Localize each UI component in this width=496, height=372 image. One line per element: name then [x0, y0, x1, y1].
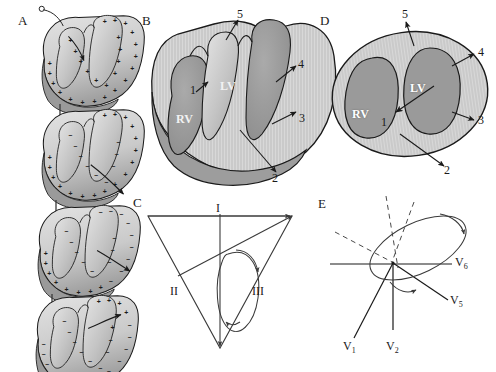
svg-text:+: +	[51, 80, 55, 87]
panel-letter-e: E	[318, 197, 326, 210]
svg-text:–: –	[119, 210, 123, 217]
panel-e-lead-v5-letter: V	[450, 293, 459, 307]
svg-text:–: –	[126, 219, 130, 226]
svg-text:–: –	[75, 248, 79, 255]
svg-text:+: +	[74, 48, 78, 55]
panel-d-callout-5: 5	[402, 8, 408, 20]
svg-text:+: +	[44, 260, 48, 267]
panel-b-callout-5: 5	[237, 8, 243, 20]
svg-text:–: –	[79, 152, 83, 159]
panel-e-lead-v6: V6	[455, 256, 468, 271]
figure-canvas: +++ +++ +++ +++ +++ +++ +++ +++ +++ +++ …	[0, 0, 496, 372]
svg-text:+: +	[103, 18, 107, 25]
panel-b-callout-2: 2	[272, 172, 278, 184]
svg-text:–: –	[115, 150, 119, 157]
svg-text:–: –	[99, 364, 103, 371]
svg-text:+: +	[94, 77, 98, 84]
panel-letter-a: A	[18, 14, 27, 27]
svg-text:+: +	[130, 123, 134, 130]
panel-c-lead-ii: II	[170, 285, 178, 297]
panel-d-label-lv: LV	[410, 82, 426, 94]
svg-text:–: –	[80, 348, 84, 355]
svg-text:–: –	[86, 162, 90, 169]
panel-d-label-rv: RV	[352, 108, 369, 120]
svg-text:–: –	[107, 258, 111, 265]
panel-b-callout-4: 4	[298, 58, 304, 70]
panel-e-lead-v2-sub: 2	[395, 346, 399, 355]
panel-c-lead-iii: III	[252, 285, 264, 297]
panel-e-origin	[391, 261, 394, 264]
panel-letter-b: B	[142, 14, 151, 27]
panel-e-lead-v6-sub: 6	[464, 262, 468, 271]
svg-text:–: –	[90, 267, 94, 274]
svg-text:+: +	[103, 188, 107, 195]
svg-text:–: –	[111, 162, 115, 169]
svg-text:–: –	[111, 246, 115, 253]
svg-text:+: +	[68, 37, 72, 44]
svg-text:+: +	[113, 70, 117, 77]
svg-text:+: +	[117, 34, 121, 41]
panel-a-stage-4: ––– ––– ––– ––– –++ ++ ––– ––– ––+	[36, 295, 138, 372]
svg-text:+: +	[64, 286, 68, 293]
svg-text:+: +	[123, 114, 127, 121]
svg-text:–: –	[117, 357, 121, 364]
svg-text:+: +	[134, 147, 138, 154]
svg-text:–: –	[64, 227, 68, 234]
svg-text:+: +	[92, 98, 96, 105]
svg-text:+: +	[123, 171, 127, 178]
svg-text:–: –	[70, 238, 74, 245]
panel-e-dashed-diagonal-b	[335, 232, 392, 262]
svg-text:–: –	[109, 336, 113, 343]
panel-b-label-rv: RV	[176, 113, 193, 125]
svg-text:+: +	[134, 41, 138, 48]
svg-text:–: –	[42, 350, 46, 357]
svg-text:–: –	[117, 138, 121, 145]
svg-text:+: +	[134, 135, 138, 142]
svg-text:–: –	[126, 255, 130, 262]
panel-e-lead-v2: V2	[386, 340, 399, 355]
svg-text:–: –	[94, 171, 98, 178]
svg-text:–: –	[113, 234, 117, 241]
panel-c-loop-arrow-up	[236, 250, 258, 272]
panel-c-lead-i: I	[216, 202, 220, 214]
panel-e-lead-v1-letter: V	[343, 339, 352, 353]
svg-text:+: +	[123, 77, 127, 84]
svg-text:+: +	[48, 154, 52, 161]
svg-text:+: +	[58, 183, 62, 190]
svg-text:+: +	[103, 112, 107, 119]
svg-text:–: –	[68, 328, 72, 335]
svg-text:+: +	[97, 298, 101, 305]
svg-text:+: +	[48, 164, 52, 171]
svg-text:+: +	[54, 279, 58, 286]
svg-text:+: +	[107, 297, 111, 304]
svg-text:+: +	[130, 65, 134, 72]
panel-letter-c: C	[133, 196, 142, 209]
svg-text:–: –	[128, 321, 132, 328]
panel-d-callout-2: 2	[444, 164, 450, 176]
svg-text:+: +	[130, 159, 134, 166]
panel-e-lead-v2-letter: V	[386, 339, 395, 353]
svg-text:–: –	[42, 340, 46, 347]
svg-text:+: +	[80, 99, 84, 106]
svg-text:+: +	[48, 60, 52, 67]
svg-text:+: +	[113, 17, 117, 24]
panel-a-stage-2: +++ +++ +++ +++ +++ ++ ––– ––– –––	[42, 109, 144, 208]
panel-e-lead-v6-letter: V	[455, 255, 464, 269]
panel-a-stage-1: +++ +++ +++ +++ +++ +++ +++ +++ +++	[39, 6, 144, 115]
svg-text:–: –	[124, 345, 128, 352]
svg-text:+: +	[47, 270, 51, 277]
svg-text:+: +	[117, 58, 121, 65]
panel-e-lead-v1-sub: 1	[352, 346, 356, 355]
panel-b-callout-1: 1	[190, 84, 196, 96]
svg-text:+: +	[113, 111, 117, 118]
svg-text:+: +	[86, 68, 90, 75]
svg-text:–: –	[99, 208, 103, 215]
svg-text:–: –	[105, 178, 109, 185]
svg-text:+: +	[117, 300, 121, 307]
svg-text:–: –	[105, 348, 109, 355]
svg-text:–: –	[73, 338, 77, 345]
svg-text:+: +	[68, 96, 72, 103]
svg-text:–: –	[128, 333, 132, 340]
svg-text:+: +	[103, 94, 107, 101]
svg-text:+: +	[105, 82, 109, 89]
